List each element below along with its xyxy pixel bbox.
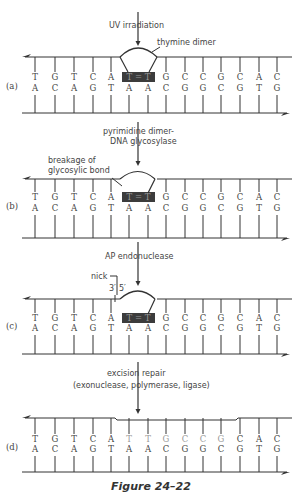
- end-label-3prime: 3′: [109, 284, 116, 293]
- top-base: T: [71, 313, 77, 323]
- top-base: C: [200, 313, 207, 323]
- top-base: C: [274, 72, 281, 82]
- bottom-base: A: [31, 203, 39, 213]
- top-base: C: [274, 192, 281, 202]
- top-base: C: [237, 72, 244, 82]
- bottom-base: G: [200, 323, 207, 333]
- bottom-base: C: [218, 444, 225, 454]
- top-base: A: [107, 313, 115, 323]
- top-base: G: [218, 434, 225, 444]
- top-base: G: [218, 192, 225, 202]
- top-base: T: [32, 434, 38, 444]
- top-base: C: [274, 313, 281, 323]
- bottom-base: G: [90, 444, 97, 454]
- top-base: T: [32, 192, 38, 202]
- end-label-5prime: 5′: [119, 284, 126, 293]
- arrow-down-icon: [136, 281, 141, 286]
- top-base: C: [274, 434, 281, 444]
- top-base: C: [182, 72, 189, 82]
- top-base: C: [182, 192, 189, 202]
- top-base: G: [52, 434, 59, 444]
- arrow-down-icon: [136, 161, 141, 166]
- top-base: T: [32, 313, 38, 323]
- step-label-uv: UV irradiation: [109, 21, 164, 30]
- bottom-base: T: [256, 444, 262, 454]
- bottom-base: G: [274, 83, 281, 93]
- bottom-base: A: [125, 83, 133, 93]
- dna-excision-repair-diagram: (a)TAGCTACGATAAGCCGCGGCCGATCGT = T(b)TAG…: [0, 0, 303, 497]
- repair-junction: [236, 418, 238, 420]
- top-base: G: [218, 313, 225, 323]
- thymine-dimer-label: T = T: [127, 192, 151, 202]
- step-label-enzymes: (exonuclease, polymerase, ligase): [73, 381, 210, 390]
- bottom-base: G: [200, 203, 207, 213]
- bottom-base: G: [90, 83, 97, 93]
- bottom-base: C: [218, 83, 225, 93]
- top-base: T: [126, 434, 132, 444]
- step-label-excision-repair: excision repair: [107, 369, 166, 378]
- top-base: A: [107, 72, 115, 82]
- annotation-leader: [152, 47, 160, 52]
- dimer-backbone-loop: [120, 48, 157, 57]
- bottom-base: G: [182, 203, 189, 213]
- bottom-base: G: [274, 203, 281, 213]
- top-base: C: [200, 434, 207, 444]
- bottom-base: A: [125, 323, 133, 333]
- bottom-base: A: [125, 203, 133, 213]
- bottom-base: A: [144, 323, 152, 333]
- bottom-base: C: [52, 83, 59, 93]
- arrow-down-icon: [136, 41, 141, 46]
- top-base: A: [107, 434, 115, 444]
- bottom-base: T: [108, 83, 114, 93]
- bottom-base: A: [144, 444, 152, 454]
- glycosylic-bond: [120, 57, 128, 72]
- annotation-nick: nick: [91, 272, 108, 281]
- top-base: A: [255, 434, 263, 444]
- top-base: C: [237, 434, 244, 444]
- top-base: C: [237, 313, 244, 323]
- top-base: G: [52, 192, 59, 202]
- bottom-base: A: [70, 83, 78, 93]
- bottom-base: C: [52, 203, 59, 213]
- arrow-down-icon: [136, 409, 141, 414]
- annotation-breakage-1: breakage of: [48, 156, 96, 165]
- bottom-base: A: [144, 203, 152, 213]
- bottom-base: A: [31, 444, 39, 454]
- bottom-base: C: [163, 444, 170, 454]
- glycosylic-bond: [148, 179, 155, 193]
- dimer-backbone-loop: [120, 172, 155, 180]
- top-base: G: [52, 313, 59, 323]
- bottom-base: G: [274, 323, 281, 333]
- top-base: C: [200, 192, 207, 202]
- top-base: A: [255, 192, 263, 202]
- top-base: G: [218, 72, 225, 82]
- bottom-base: G: [237, 323, 244, 333]
- panel-label: (b): [6, 201, 18, 211]
- top-base: G: [163, 434, 170, 444]
- bottom-base: C: [52, 323, 59, 333]
- top-base: G: [163, 192, 170, 202]
- bottom-base: G: [90, 203, 97, 213]
- bottom-base: T: [108, 323, 114, 333]
- bottom-base: A: [144, 83, 152, 93]
- bottom-base: C: [218, 323, 225, 333]
- bottom-base: G: [237, 203, 244, 213]
- thymine-dimer-label: T = T: [127, 313, 151, 323]
- top-base: C: [90, 72, 97, 82]
- panel-label: (c): [6, 321, 17, 331]
- bottom-base: G: [182, 444, 189, 454]
- bottom-base: T: [256, 83, 262, 93]
- bottom-base: A: [125, 444, 133, 454]
- top-base: T: [71, 72, 77, 82]
- top-base: C: [237, 192, 244, 202]
- top-base: C: [182, 434, 189, 444]
- bottom-base: C: [163, 203, 170, 213]
- bottom-base: T: [256, 323, 262, 333]
- top-base: A: [255, 313, 263, 323]
- repair-junction: [115, 418, 117, 420]
- bottom-base: C: [52, 444, 59, 454]
- top-base: T: [71, 192, 77, 202]
- top-base: C: [90, 313, 97, 323]
- top-base: A: [255, 72, 263, 82]
- top-base: G: [163, 313, 170, 323]
